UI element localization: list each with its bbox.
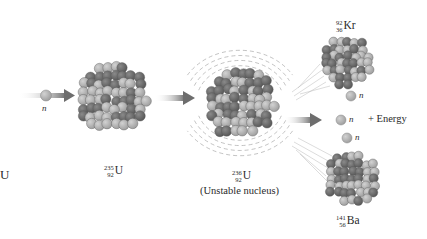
incoming-neutron-label: n <box>42 104 47 113</box>
unstable-nucleus-caption: (Unstable nucleus) <box>200 186 279 197</box>
atomic-number: 92 <box>235 176 242 183</box>
released-neutron-2 <box>326 115 346 125</box>
uranium-235-label: 23592 U <box>104 164 123 178</box>
atomic-number: 56 <box>339 221 346 228</box>
uranium-236-nucleus <box>206 68 279 137</box>
diagram-artwork <box>0 0 427 239</box>
released-neutron-label-2: n <box>349 115 354 124</box>
edge-label: U <box>0 168 9 181</box>
mass-number: 235 <box>104 164 114 171</box>
atomic-number: 36 <box>336 26 343 33</box>
mass-number: 92 <box>336 19 343 26</box>
element-symbol: Kr <box>344 20 356 32</box>
element-symbol: Ba <box>347 215 360 227</box>
incoming-neutron <box>41 90 52 101</box>
barium-trail <box>292 138 332 184</box>
released-neutron-label-1: n <box>359 91 364 100</box>
barium-nucleus <box>325 151 379 205</box>
absorption-arrow <box>155 91 195 105</box>
fission-diagram: U n 23592 U 23692 U (Unstable nucleus) 9… <box>0 0 427 239</box>
uranium-235-nucleus <box>78 61 151 130</box>
fission-arrow <box>284 113 322 127</box>
uranium-236-label: 23692 U <box>232 169 251 183</box>
energy-label: + Energy <box>368 114 407 125</box>
mass-number: 141 <box>336 214 346 221</box>
element-symbol: U <box>243 170 251 182</box>
released-neutron-1 <box>336 91 356 101</box>
released-neutron-3 <box>332 133 352 143</box>
released-neutron-label-3: n <box>355 133 360 142</box>
krypton-label: 9236 Kr <box>336 19 356 33</box>
atomic-number: 92 <box>107 171 114 178</box>
mass-number: 236 <box>232 169 242 176</box>
krypton-nucleus <box>322 37 374 89</box>
barium-label: 14156 Ba <box>336 214 360 228</box>
element-symbol: U <box>115 165 123 177</box>
